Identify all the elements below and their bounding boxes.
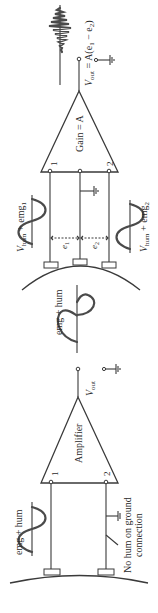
lead-b-ground-icon: [106, 511, 120, 521]
emg-differential-amplifier-diagram: Gain = A 1 2 e1 e2 Vhum + emg1 Vhum + em…: [0, 0, 158, 613]
output-ground-icon: [94, 55, 114, 65]
input-terminal-2: [107, 169, 111, 173]
ground-note-line-2: connection: [133, 513, 144, 557]
emg-burst-waveform-icon: [49, 5, 71, 85]
electrode-pad-b: [98, 569, 114, 575]
e2-dimension-arrow: [81, 236, 108, 240]
e1-label: e1: [59, 242, 70, 249]
diff-input-1-number: 1: [49, 162, 59, 167]
input-terminal-ref: [78, 169, 82, 173]
amp-output-terminal: [76, 367, 80, 371]
amp-input-terminal-1: [49, 480, 53, 484]
ground-note-pointer: [106, 535, 118, 545]
amp-input-signal-label: emg + hum: [13, 509, 24, 555]
e2-label: e2: [89, 242, 100, 249]
output-terminal: [77, 57, 81, 61]
ground-note-line-1: No hum on ground: [122, 497, 133, 573]
electrode-pad-2: [102, 262, 116, 268]
amp-input-terminal-2: [104, 480, 108, 484]
skin-surface-top: [22, 266, 140, 290]
electrode-pad-1: [44, 262, 58, 268]
diff-output-label: Vout = A(e1 − e2): [83, 20, 96, 86]
e1-dimension-arrow: [51, 236, 79, 240]
input-terminal-1: [48, 169, 52, 173]
gain-label: Gain = A: [74, 114, 85, 152]
ground-icon: [80, 186, 98, 196]
diff-input-2-number: 2: [105, 162, 115, 167]
input-2-signal-label: Vhum + emg2: [138, 202, 151, 252]
skin-surface-bottom: [10, 576, 148, 584]
amplifier-label: Amplifier: [73, 423, 84, 463]
amp-output-label: Vout: [84, 381, 97, 396]
middle-signal-label: emg + hum: [53, 289, 64, 335]
electrode-pad-a: [44, 569, 60, 575]
electrode-pad-ground: [73, 259, 87, 265]
amp-input-1-number: 1: [50, 472, 60, 477]
amp-input-2-number: 2: [102, 472, 112, 477]
input-1-signal-label: Vhum + emg1: [15, 202, 28, 252]
amp-output-ground-icon: [102, 364, 120, 374]
